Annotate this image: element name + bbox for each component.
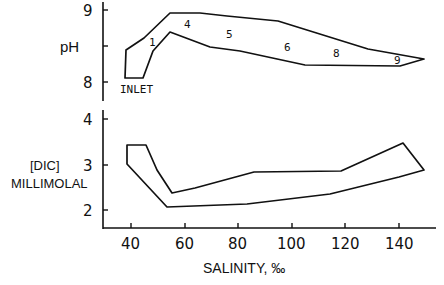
ph-tick-label-8: 8	[83, 74, 93, 92]
x-tick-label-120: 120	[331, 235, 360, 253]
station-label-1: 1	[149, 36, 156, 49]
chart-figure: 9 8 pH INLET 1 4 5 6 8 9 4 3 2 [DIC] MIL…	[0, 0, 444, 285]
x-tick-label-140: 140	[385, 235, 414, 253]
station-label-9: 9	[394, 54, 401, 67]
dic-axis-label-line2: MILLIMOLAL	[11, 176, 88, 191]
dic-axis-label-line1: [DIC]	[30, 158, 60, 173]
station-label-8: 8	[333, 47, 340, 60]
dic-envelope	[127, 143, 424, 207]
ph-tick-label-9: 9	[83, 2, 93, 20]
station-label-4: 4	[184, 18, 191, 31]
inlet-label: INLET	[120, 83, 153, 96]
dic-tick-label-4: 4	[83, 111, 93, 129]
x-tick-label-80: 80	[228, 235, 247, 253]
dic-tick-label-3: 3	[83, 157, 93, 175]
ph-envelope	[125, 13, 424, 78]
station-label-6: 6	[284, 41, 291, 54]
ph-axis-label: pH	[60, 38, 79, 55]
x-axis-label: SALINITY, ‰	[203, 260, 285, 276]
x-tick-label-100: 100	[277, 235, 306, 253]
x-tick-label-60: 60	[175, 235, 194, 253]
dic-tick-label-2: 2	[83, 202, 93, 220]
x-tick-label-40: 40	[121, 235, 140, 253]
station-label-5: 5	[226, 28, 233, 41]
